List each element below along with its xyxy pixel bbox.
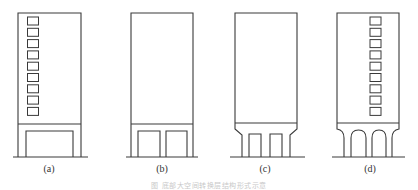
building-a (13, 13, 88, 157)
building-outline (131, 13, 193, 157)
panel-label-d: (d) (355, 163, 385, 174)
panel-label-a: (a) (34, 163, 64, 174)
window-column (28, 17, 39, 115)
figure-caption: 图 底部大空间转换层结构形式示意 (0, 180, 418, 190)
building-c (230, 13, 305, 157)
building-outline (337, 13, 399, 157)
window-column (370, 17, 381, 115)
building-elevation-diagram (0, 0, 418, 190)
opening-right (166, 131, 187, 157)
building-d (332, 13, 405, 157)
large-opening (26, 131, 73, 157)
building-b (126, 13, 198, 157)
panel-label-b: (b) (147, 163, 177, 174)
opening-right (270, 134, 282, 157)
opening-left (138, 131, 160, 157)
panel-label-c: (c) (250, 163, 280, 174)
arch-opening-right (372, 130, 386, 157)
opening-left (249, 134, 261, 157)
building-outline (235, 13, 297, 157)
arch-opening-left (351, 130, 366, 157)
